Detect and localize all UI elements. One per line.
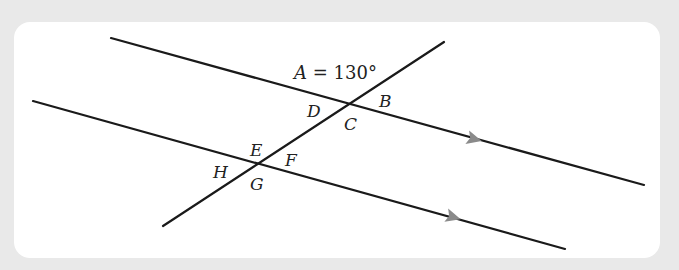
angle-f-label: F — [284, 150, 298, 170]
parallel-line-upper — [111, 38, 644, 185]
angle-d-label: D — [306, 101, 321, 121]
angle-a-value: = 130° — [307, 62, 377, 83]
parallel-line-lower — [33, 101, 565, 249]
angle-b-label: B — [378, 91, 392, 111]
angle-h-label: H — [212, 162, 229, 182]
angle-a-var: A — [292, 62, 307, 83]
angle-g-label: G — [250, 174, 264, 194]
angle-a-label: A = 130° — [292, 62, 377, 83]
parallel-lines-transversal-diagram: A = 130° B C D E F G H — [0, 0, 679, 270]
angle-e-label: E — [249, 140, 263, 160]
angle-c-label: C — [344, 114, 357, 134]
